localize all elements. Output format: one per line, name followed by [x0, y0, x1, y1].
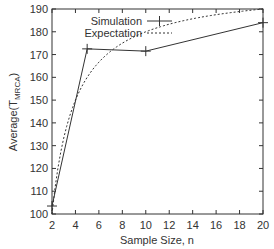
- legend-label: Simulation: [91, 15, 142, 27]
- x-tick-label: 8: [119, 219, 125, 231]
- y-tick-label: 120: [30, 162, 48, 174]
- x-tick-label: 2: [49, 219, 55, 231]
- x-tick-label: 18: [233, 219, 245, 231]
- y-tick-label: 150: [30, 94, 48, 106]
- x-tick-label: 10: [140, 219, 152, 231]
- y-tick-label: 160: [30, 71, 48, 83]
- y-tick-label: 130: [30, 140, 48, 152]
- y-tick-label: 190: [30, 3, 48, 15]
- y-axis-label: Average(TMRCA): [7, 73, 22, 151]
- y-tick-label: 180: [30, 26, 48, 38]
- x-tick-label: 12: [163, 219, 175, 231]
- x-tick-label: 4: [72, 219, 78, 231]
- x-tick-label: 6: [96, 219, 102, 231]
- x-tick-label: 14: [187, 219, 199, 231]
- series-simulation: [52, 23, 263, 206]
- y-tick-label: 100: [30, 208, 48, 220]
- line-chart: 2468101214161820100110120130140150160170…: [0, 0, 274, 249]
- y-tick-label: 170: [30, 49, 48, 61]
- y-tick-label: 140: [30, 117, 48, 129]
- series-expectation: [52, 9, 263, 214]
- plot-series: [47, 9, 268, 214]
- plot-frame: [52, 9, 263, 214]
- legend: SimulationExpectation: [85, 15, 172, 39]
- plot-axes: 2468101214161820100110120130140150160170…: [30, 3, 269, 231]
- legend-label: Expectation: [85, 27, 142, 39]
- y-tick-label: 110: [30, 185, 48, 197]
- x-axis-label: Sample Size, n: [120, 234, 194, 246]
- x-tick-label: 20: [257, 219, 269, 231]
- x-tick-label: 16: [210, 219, 222, 231]
